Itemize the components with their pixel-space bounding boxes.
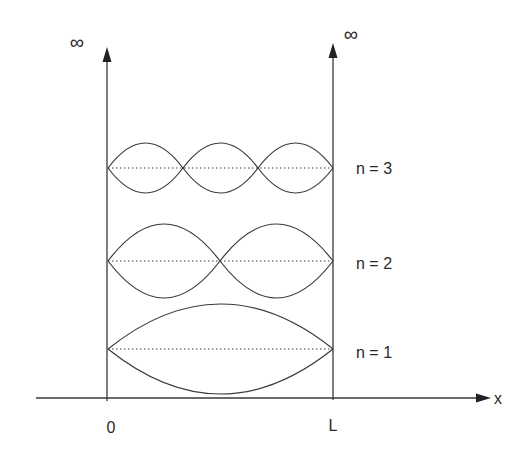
wall-length-label: L	[329, 417, 338, 434]
mode-n2-label: n = 2	[356, 255, 392, 272]
x-axis-arrow-icon	[476, 394, 491, 403]
mode-n1	[108, 304, 333, 394]
mode-n3-label: n = 3	[356, 160, 392, 177]
x-axis-label: x	[494, 390, 502, 407]
right-infinity-label: ∞	[344, 23, 358, 45]
mode-n2	[108, 224, 333, 298]
mode-n3	[108, 143, 333, 193]
left-infinity-label: ∞	[70, 31, 84, 53]
left-wall-arrow-icon	[103, 47, 112, 62]
mode-n2-wave	[108, 224, 333, 261]
mode-n1-wave	[108, 304, 333, 349]
x-axis	[36, 394, 491, 403]
mode-n3-wave	[108, 143, 333, 168]
mode-n1-label: n = 1	[356, 344, 392, 361]
infinite-well-diagram: ∞ ∞ n = 3 n = 2 n = 1 0 L x	[0, 0, 529, 459]
origin-label: 0	[107, 419, 116, 436]
right-wall-arrow-icon	[329, 43, 338, 58]
